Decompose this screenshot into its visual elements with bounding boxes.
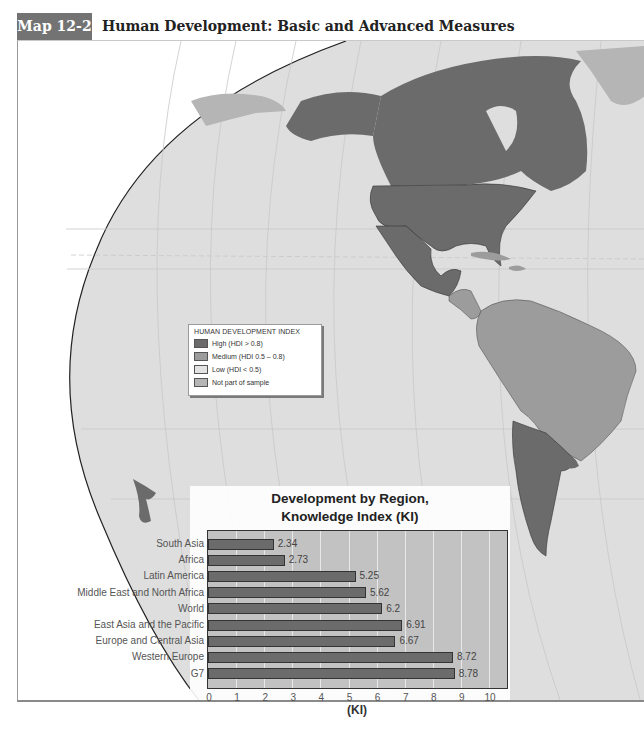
legend-title: HUMAN DEVELOPMENT INDEX	[194, 328, 316, 335]
bar	[208, 620, 402, 631]
legend-swatch-medium	[194, 352, 208, 361]
bar-value-label: 5.62	[370, 587, 389, 599]
bar-value-label: 8.72	[457, 651, 476, 663]
bar-value-label: 2.34	[278, 538, 297, 550]
category-label: Western Europe	[132, 651, 204, 663]
category-label: East Asia and the Pacific	[94, 619, 204, 631]
bar	[208, 571, 356, 582]
category-label: South Asia	[156, 538, 204, 550]
x-axis-tick: 1	[227, 692, 247, 703]
chart-title: Development by Region, Knowledge Index (…	[190, 490, 510, 526]
gridline	[433, 531, 434, 688]
category-label: Africa	[178, 554, 204, 566]
category-label: Europe and Central Asia	[96, 635, 204, 647]
legend-item-not-sampled: Not part of sample	[194, 376, 316, 389]
legend-label-not-sampled: Not part of sample	[212, 379, 269, 386]
category-label: Middle East and North Africa	[77, 587, 204, 599]
x-axis-tick: 0	[199, 692, 219, 703]
legend-item-medium: Medium (HDI 0.5 – 0.8)	[194, 350, 316, 363]
x-axis-tick: 4	[311, 692, 331, 703]
legend-label-high: High (HDI > 0.8)	[212, 340, 263, 347]
category-label: G7	[191, 668, 204, 680]
x-axis-label: (KI)	[347, 703, 367, 717]
bar	[208, 603, 382, 614]
legend-label-low: Low (HDI < 0.5)	[212, 366, 261, 373]
legend-label-medium: Medium (HDI 0.5 – 0.8)	[212, 353, 285, 360]
map-header: Map 12-2 Human Development: Basic and Ad…	[0, 0, 644, 40]
map-title: Human Development: Basic and Advanced Me…	[102, 14, 515, 38]
category-label: World	[178, 603, 204, 615]
legend-swatch-high	[194, 339, 208, 348]
bar	[208, 652, 453, 663]
chart-title-line1: Development by Region,	[190, 490, 510, 508]
x-axis-tick: 10	[480, 692, 500, 703]
bar	[208, 587, 366, 598]
bar	[208, 539, 274, 550]
bar-chart-plot-area	[207, 530, 508, 689]
x-axis-tick: 2	[255, 692, 275, 703]
x-axis-tick: 8	[424, 692, 444, 703]
gridline	[461, 531, 462, 688]
bar	[208, 668, 455, 679]
bar	[208, 636, 395, 647]
category-label: Latin America	[143, 570, 204, 582]
x-axis-tick: 9	[452, 692, 472, 703]
gridline	[405, 531, 406, 688]
x-axis-tick: 6	[368, 692, 388, 703]
x-axis-tick: 5	[340, 692, 360, 703]
legend-swatch-not-sampled	[194, 378, 208, 387]
map-legend: HUMAN DEVELOPMENT INDEX High (HDI > 0.8)…	[188, 324, 322, 396]
bar-value-label: 6.67	[399, 635, 418, 647]
gridline	[489, 531, 490, 688]
bar-value-label: 6.91	[406, 619, 425, 631]
bar-value-label: 8.78	[459, 668, 478, 680]
bar	[208, 555, 285, 566]
bar-value-label: 2.73	[289, 554, 308, 566]
legend-item-low: Low (HDI < 0.5)	[194, 363, 316, 376]
x-axis-tick: 3	[283, 692, 303, 703]
x-axis-tick: 7	[396, 692, 416, 703]
chart-title-line2: Knowledge Index (KI)	[190, 508, 510, 526]
bar-value-label: 5.25	[360, 570, 379, 582]
legend-swatch-low	[194, 365, 208, 374]
legend-item-high: High (HDI > 0.8)	[194, 337, 316, 350]
bar-value-label: 6.2	[386, 603, 400, 615]
map-number-tag: Map 12-2	[17, 13, 92, 40]
